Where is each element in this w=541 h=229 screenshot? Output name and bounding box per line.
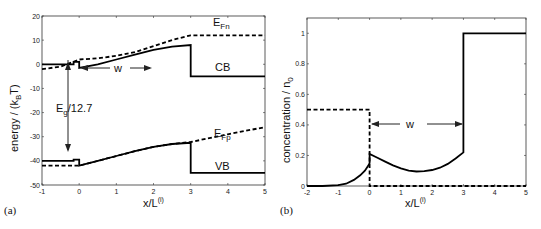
x-tick-label: -1 — [39, 188, 45, 195]
series-e-fn — [42, 35, 265, 69]
panel-a-ylabel: energy / (kBT) — [8, 84, 23, 152]
efp-label: EFp — [214, 127, 231, 142]
y-tick-label: 10 — [32, 37, 40, 44]
panel-b-axes-frame — [307, 18, 526, 186]
y-tick-label: 0.2 — [295, 152, 305, 159]
y-tick-label: -50 — [30, 182, 40, 189]
panel-b-concentration-plot: -2-101234500.20.40.60.81 w x/L(i) concen… — [280, 18, 528, 217]
y-tick-label: 0 — [301, 183, 305, 190]
y-tick-label: -20 — [30, 109, 40, 116]
x-tick-label: -1 — [335, 189, 341, 196]
w-label-b: w — [405, 118, 414, 130]
w-arrow-b-left-head — [371, 121, 379, 127]
cb-label: CB — [215, 61, 230, 73]
series-dashed — [307, 110, 526, 186]
x-tick-label: 3 — [189, 188, 193, 195]
y-tick-label: -30 — [30, 133, 40, 140]
x-tick-label: -2 — [304, 189, 310, 196]
panel-b-label: (b) — [280, 204, 293, 217]
panel-b-annotations — [371, 121, 463, 127]
panel-a-energy-plot: -1012345-50-40-30-20-1001020 EFn CB w Eg… — [4, 13, 267, 218]
x-tick-label: 3 — [461, 189, 465, 196]
w-arrow-b-right-head — [455, 121, 463, 127]
panel-a-ticks: -1012345-50-40-30-20-1001020 — [30, 13, 267, 196]
eg-arrow-head-down — [65, 144, 71, 152]
x-tick-label: 4 — [493, 189, 497, 196]
w-arrow-left-head — [80, 65, 88, 71]
y-tick-label: -10 — [30, 85, 40, 92]
figure: -1012345-50-40-30-20-1001020 EFn CB w Eg… — [0, 0, 541, 229]
panel-b-xlabel: x/L(i) — [405, 196, 426, 209]
x-tick-label: 1 — [399, 189, 403, 196]
y-tick-label: 0.4 — [295, 121, 305, 128]
x-tick-label: 0 — [77, 188, 81, 195]
x-tick-label: 5 — [263, 188, 267, 195]
x-tick-label: 5 — [524, 189, 528, 196]
eg-label: Eg/12.7 — [56, 102, 92, 117]
panel-a-label: (a) — [4, 204, 17, 217]
x-tick-label: 2 — [430, 189, 434, 196]
y-tick-label: -40 — [30, 157, 40, 164]
panel-b-series — [307, 33, 526, 186]
y-tick-label: 0.8 — [295, 60, 305, 67]
panel-a-xlabel: x/L(i) — [143, 196, 164, 209]
x-tick-label: 0 — [368, 189, 372, 196]
y-tick-label: 20 — [32, 13, 40, 20]
vb-label: VB — [215, 160, 230, 172]
x-tick-label: 1 — [114, 188, 118, 195]
y-tick-label: 1 — [301, 30, 305, 37]
w-label-a: w — [113, 62, 122, 74]
x-tick-label: 2 — [152, 188, 156, 195]
x-tick-label: 4 — [226, 188, 230, 195]
panel-b-ylabel: concentration / n0 — [280, 77, 295, 163]
y-tick-label: 0.6 — [295, 91, 305, 98]
efn-label: EFn — [213, 16, 230, 31]
w-arrow-right-head — [144, 65, 152, 71]
panel-b-ticks: -2-101234500.20.40.60.81 — [295, 18, 528, 196]
y-tick-label: 0 — [36, 61, 40, 68]
